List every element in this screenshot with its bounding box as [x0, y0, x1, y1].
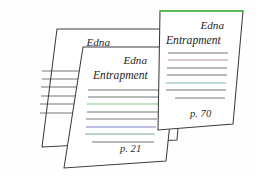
cards-group: EdnaEntrapmentEdnaEntrapmentp. 21EdnaEnt…	[40, 11, 243, 168]
card-title: Edna	[85, 36, 110, 48]
document-stack: EdnaEntrapmentEdnaEntrapmentp. 21EdnaEnt…	[0, 0, 257, 178]
card-title: Edna	[199, 19, 224, 31]
card-subtitle: Entrapment	[165, 34, 222, 47]
card-title: Edna	[122, 54, 147, 66]
document-card[interactable]: EdnaEntrapmentp. 70	[158, 11, 243, 130]
document-stack-canvas: EdnaEntrapmentEdnaEntrapmentp. 21EdnaEnt…	[0, 0, 257, 178]
card-subtitle: Entrapment	[92, 69, 149, 82]
card-page-number: p. 21	[119, 143, 141, 154]
card-page-number: p. 70	[189, 108, 212, 119]
